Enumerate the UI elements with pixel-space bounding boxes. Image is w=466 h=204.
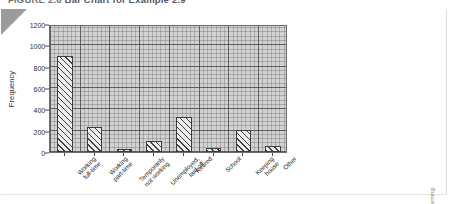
y-axis-tick-label: 800 [5,64,45,71]
x-axis-tick-mark [183,153,184,156]
figure-panel: Frequency 020040060080010001200 Working … [1,9,447,195]
bar-series [50,26,286,152]
bar [176,117,191,152]
figure-caption-text: Bar Chart for Example 2.9 [65,0,186,5]
y-axis-ticks: 020040060080010001200 [1,9,49,169]
y-axis-tick-label: 1200 [5,22,45,29]
figure-caption: FIGURE 2.6 Bar Chart for Example 2.9 [8,0,186,6]
x-axis-tick-label: Keeping house [254,155,281,182]
figure-number: FIGURE 2.6 [8,0,62,5]
bar [206,148,221,152]
bar [265,146,280,152]
bar [57,56,72,152]
x-axis-tick-mark [213,153,214,156]
x-axis-tick-mark [94,153,95,156]
x-axis-tick-mark [272,153,273,156]
x-axis-tick-mark [242,153,243,156]
plot-area [49,25,287,153]
y-axis-tick-label: 0 [5,150,45,157]
bar [236,130,251,152]
x-axis-tick-mark [64,153,65,156]
x-axis-tick-mark [123,153,124,156]
x-axis-tick-label: Working full-time [76,155,103,182]
y-axis-tick-label: 600 [5,86,45,93]
y-axis-tick-label: 1000 [5,43,45,50]
x-axis-tick-label: Working part-time [106,155,134,183]
x-axis-tick-label: Other [282,155,298,171]
y-axis-tick-label: 200 [5,128,45,135]
x-axis-labels: Working full-timeWorking part-timeTempor… [49,155,287,204]
y-axis-tick-label: 400 [5,107,45,114]
copyright-credit: © Cengage Learning [429,188,435,204]
x-axis-tick-mark [153,153,154,156]
bar [117,149,132,152]
bar-chart: Frequency 020040060080010001200 Working … [1,9,447,195]
x-axis-tick-label: School [223,155,242,174]
bar [146,141,161,152]
x-axis-tick-label: Temporarily not working [138,155,171,188]
bar [87,127,102,152]
